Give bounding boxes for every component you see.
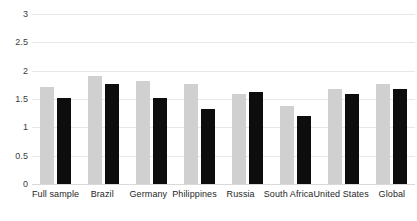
x-axis: Full sampleBrazilGermanyPhilippinesRussi… <box>32 188 415 212</box>
bar[interactable] <box>328 89 342 184</box>
bar[interactable] <box>201 109 215 184</box>
y-tick-label: 2.5 <box>15 37 28 47</box>
bar-group <box>176 14 224 184</box>
bar[interactable] <box>136 81 150 184</box>
bars-layer <box>32 14 415 184</box>
y-tick-label: 1.5 <box>15 94 28 104</box>
bar[interactable] <box>376 84 390 184</box>
y-tick-label: 3 <box>23 9 28 19</box>
bar-group <box>32 14 80 184</box>
bar[interactable] <box>249 92 263 184</box>
x-tick-label: Germany <box>125 188 171 212</box>
bar-group <box>271 14 319 184</box>
bar-chart: 32.521.510.50 Full sampleBrazilGermanyPh… <box>0 0 417 221</box>
x-tick-label: Global <box>369 188 415 212</box>
bar-group <box>80 14 128 184</box>
x-tick-label: United States <box>313 188 368 212</box>
bar[interactable] <box>57 98 71 184</box>
bar[interactable] <box>105 84 119 184</box>
bar[interactable] <box>88 76 102 184</box>
bar[interactable] <box>345 94 359 184</box>
bar[interactable] <box>232 94 246 184</box>
y-tick-label: 0 <box>23 179 28 189</box>
bar-group <box>224 14 272 184</box>
bar[interactable] <box>297 116 311 184</box>
x-tick-label: Philippines <box>171 188 217 212</box>
bar[interactable] <box>153 98 167 184</box>
x-tick-label: Russia <box>218 188 264 212</box>
bar[interactable] <box>40 87 54 184</box>
bar-group <box>319 14 367 184</box>
bar[interactable] <box>393 89 407 184</box>
gridline-0 <box>32 184 415 185</box>
x-tick-label: South Africa <box>264 188 314 212</box>
bar-group <box>128 14 176 184</box>
bar[interactable] <box>280 106 294 184</box>
y-tick-label: 0.5 <box>15 151 28 161</box>
bar[interactable] <box>184 84 198 184</box>
y-tick-label: 1 <box>23 122 28 132</box>
y-axis: 32.521.510.50 <box>0 14 28 184</box>
y-tick-label: 2 <box>23 66 28 76</box>
x-tick-label: Full sample <box>32 188 79 212</box>
x-tick-label: Brazil <box>79 188 125 212</box>
bar-group <box>367 14 415 184</box>
